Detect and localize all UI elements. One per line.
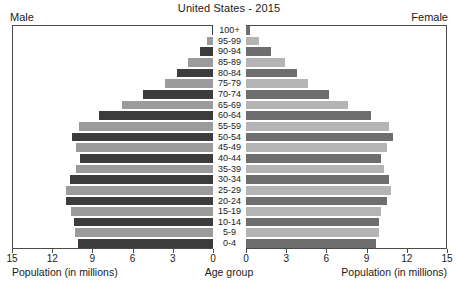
female-axis-title: Population (in millions) [341,266,447,278]
age-group-label: 40-44 [213,153,246,164]
female-axis-tick-label: 0 [243,253,249,264]
female-side-label: Female [411,11,448,23]
male-axis-tick-label: 12 [47,253,58,264]
male-axis-tick-label: 15 [6,253,17,264]
age-group-label: 100+ [213,25,246,36]
age-group-label: 70-74 [213,89,246,100]
age-group-label: 95-99 [213,36,246,47]
male-axis-tick-label: 3 [170,253,176,264]
female-plot-frame [246,25,447,249]
age-group-label: 15-19 [213,206,246,217]
population-pyramid-chart: United States - 2015 Male Female 100+95-… [0,0,458,288]
age-group-label: 45-49 [213,142,246,153]
male-axis-tick-label: 0 [210,253,216,264]
age-group-label: 75-79 [213,78,246,89]
age-group-label: 50-54 [213,132,246,143]
male-x-axis: 15129630 [12,249,213,267]
age-group-label: 85-89 [213,57,246,68]
age-group-label: 25-29 [213,185,246,196]
age-group-label: 35-39 [213,164,246,175]
male-axis-tick-label: 6 [130,253,136,264]
age-group-label: 90-94 [213,46,246,57]
age-group-label: 80-84 [213,68,246,79]
female-axis-tick-label: 9 [364,253,370,264]
male-axis-tick-label: 9 [90,253,96,264]
male-side-label: Male [10,11,34,23]
age-group-label: 20-24 [213,196,246,207]
female-axis-tick-label: 15 [441,253,452,264]
age-group-label: 60-64 [213,110,246,121]
age-group-label: 0-4 [213,238,246,249]
female-x-axis: 03691215 [246,249,447,267]
age-group-label: 10-14 [213,217,246,228]
male-plot-frame [12,25,213,249]
age-group-axis: 100+95-9990-9485-8980-8475-7970-7465-696… [213,25,246,249]
age-group-label: 5-9 [213,227,246,238]
age-group-label: 65-69 [213,100,246,111]
chart-title: United States - 2015 [0,2,458,14]
female-axis-tick-label: 12 [401,253,412,264]
age-group-label: 55-59 [213,121,246,132]
female-axis-tick-label: 6 [324,253,330,264]
female-axis-tick-label: 3 [283,253,289,264]
age-group-label: 30-34 [213,174,246,185]
